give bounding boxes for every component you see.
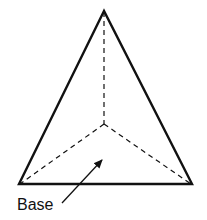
base-pointer-arrow (62, 160, 102, 203)
pyramid-diagram: Base (0, 0, 207, 220)
hidden-edges (20, 12, 191, 184)
base-label: Base (17, 196, 54, 213)
pyramid-outline (19, 11, 192, 184)
